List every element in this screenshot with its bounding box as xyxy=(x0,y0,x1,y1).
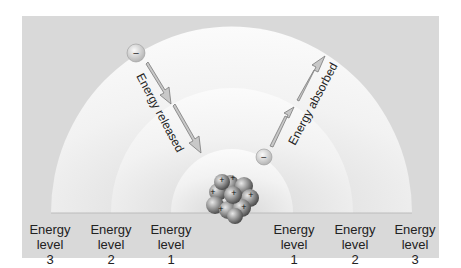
proton-symbol: + xyxy=(248,190,253,200)
proton-symbol: + xyxy=(219,175,224,185)
electron-outer: − xyxy=(127,44,145,62)
label-right-level-1: Energylevel1 xyxy=(264,222,324,267)
label-right-level-3: Energylevel3 xyxy=(385,222,445,267)
proton-symbol: + xyxy=(210,187,215,197)
label-left-level-3: Energylevel3 xyxy=(20,222,80,267)
proton-symbol: + xyxy=(230,173,235,183)
label-right-level-2: Energylevel2 xyxy=(325,222,385,267)
label-left-level-2: Energylevel2 xyxy=(81,222,141,267)
label-left-level-1: Energylevel1 xyxy=(141,222,201,267)
proton-symbol: + xyxy=(241,202,246,212)
electron-inner: − xyxy=(256,149,272,165)
proton-symbol: + xyxy=(218,204,223,214)
proton-symbol: + xyxy=(231,188,236,198)
electron-symbol: − xyxy=(261,152,267,163)
electron-symbol: − xyxy=(133,47,139,59)
